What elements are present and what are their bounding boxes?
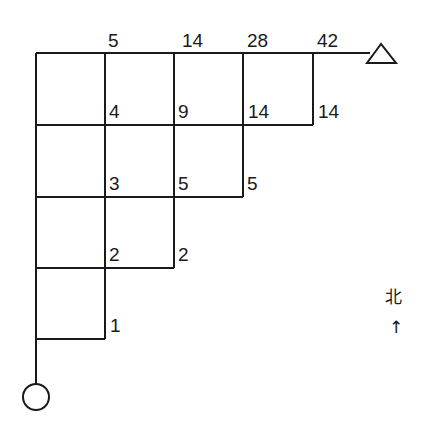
start-circle-icon xyxy=(23,384,49,410)
label-top-4: 42 xyxy=(317,30,338,51)
label-top-1: 5 xyxy=(108,30,119,51)
label-r1-3: 14 xyxy=(248,101,270,122)
path-grid-diagram: 5 14 28 42 4 9 14 14 3 5 5 2 2 1 北 ↑ xyxy=(0,0,428,433)
label-r4-1: 1 xyxy=(110,315,121,336)
label-r2-2: 5 xyxy=(178,173,189,194)
label-top-3: 28 xyxy=(247,30,268,51)
grid-svg: 5 14 28 42 4 9 14 14 3 5 5 2 2 1 北 ↑ xyxy=(0,0,428,433)
label-r3-2: 2 xyxy=(178,244,189,265)
north-label: 北 xyxy=(385,287,402,307)
label-r2-3: 5 xyxy=(247,173,258,194)
label-r1-4: 14 xyxy=(318,101,340,122)
label-r1-1: 4 xyxy=(109,101,120,122)
label-r2-1: 3 xyxy=(109,173,120,194)
label-r3-1: 2 xyxy=(109,244,120,265)
north-arrow-icon: ↑ xyxy=(389,317,403,337)
label-top-2: 14 xyxy=(182,30,204,51)
label-r1-2: 9 xyxy=(178,101,189,122)
end-triangle-icon xyxy=(367,44,396,63)
